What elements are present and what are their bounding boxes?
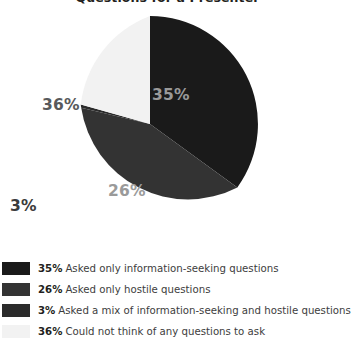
legend-label: 3%Asked a mix of information-seeking and… — [38, 304, 351, 317]
legend-label: 36%Could not think of any questions to a… — [38, 325, 265, 338]
legend-percent: 36% — [38, 326, 62, 337]
legend-swatch-icon — [2, 283, 30, 296]
legend-item: 3%Asked a mix of information-seeking and… — [0, 300, 335, 320]
pie-chart — [42, 16, 258, 232]
legend-percent: 26% — [38, 284, 62, 295]
legend-description: Asked a mix of information-seeking and h… — [58, 305, 350, 316]
chart-legend: 35%Asked only information-seeking questi… — [0, 258, 335, 339]
legend-item: 35%Asked only information-seeking questi… — [0, 258, 335, 278]
legend-item: 36%Could not think of any questions to a… — [0, 321, 335, 339]
chart-title: Questions for a Presenter — [0, 0, 335, 5]
legend-item: 26%Asked only hostile questions — [0, 279, 335, 299]
pie-label-35: 35% — [152, 88, 190, 104]
legend-percent: 35% — [38, 263, 62, 274]
legend-swatch-icon — [2, 325, 30, 338]
legend-description: Asked only hostile questions — [65, 284, 210, 295]
pie-label-36: 36% — [42, 98, 80, 114]
legend-swatch-icon — [2, 262, 30, 275]
legend-label: 35%Asked only information-seeking questi… — [38, 262, 279, 275]
pie-chart-svg — [42, 16, 258, 232]
legend-label: 26%Asked only hostile questions — [38, 283, 210, 296]
legend-description: Asked only information-seeking questions — [65, 263, 278, 274]
pie-label-26: 26% — [108, 184, 146, 200]
legend-description: Could not think of any questions to ask — [65, 326, 265, 337]
pie-label-3: 3% — [10, 199, 37, 215]
legend-percent: 3% — [38, 305, 55, 316]
legend-swatch-icon — [2, 304, 30, 317]
